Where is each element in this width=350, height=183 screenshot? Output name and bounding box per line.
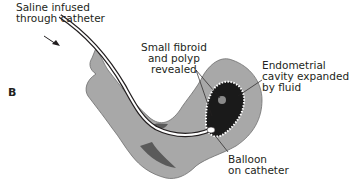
saline-arrowhead-icon — [52, 40, 60, 46]
fibroid-label-line-3: revealed — [141, 64, 207, 75]
cavity-label-line-3: by fluid — [262, 82, 349, 93]
balloon-label-line-2: on catheter — [228, 165, 289, 176]
panel-label: B — [8, 86, 16, 99]
saline-label-line-2: through catheter — [16, 13, 105, 24]
saline-label: Saline infused through catheter — [16, 2, 105, 24]
balloon-label: Balloon on catheter — [228, 154, 289, 176]
cavity-label: Endometrial cavity expanded by fluid — [262, 60, 349, 93]
balloon — [207, 127, 215, 133]
fibroid-label: Small fibroid and polyp revealed — [141, 42, 207, 75]
